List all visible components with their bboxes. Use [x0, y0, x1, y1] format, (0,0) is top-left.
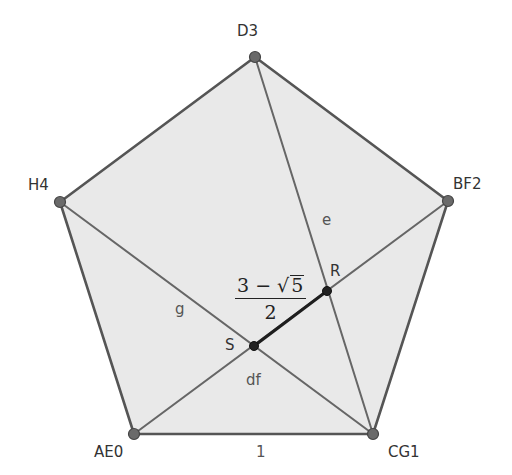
formula-denominator: 2 [235, 299, 306, 322]
vertex-CG1[interactable] [368, 429, 379, 440]
label-S: S [225, 338, 235, 353]
label-segment-df: df [246, 373, 261, 388]
vertex-H4[interactable] [55, 197, 66, 208]
label-segment-base: 1 [256, 445, 266, 460]
pentagon-diagram [0, 0, 512, 475]
vertex-BF2[interactable] [443, 196, 454, 207]
vertex-AE0[interactable] [129, 429, 140, 440]
formula-radicand: 5 [290, 275, 304, 295]
label-R: R [330, 264, 340, 279]
vertex-D3[interactable] [250, 52, 261, 63]
sqrt-symbol: √ [277, 274, 289, 296]
label-BF2: BF2 [453, 177, 481, 192]
label-CG1: CG1 [388, 445, 420, 460]
point-S[interactable] [250, 342, 259, 351]
formula-numerator-left: 3 − [237, 274, 277, 296]
label-D3: D3 [237, 24, 258, 39]
label-AE0: AE0 [94, 445, 123, 460]
label-segment-e: e [322, 213, 331, 228]
formula-length-RS: 3 − √5 2 [235, 275, 306, 322]
formula-numerator: 3 − √5 [235, 275, 306, 299]
point-R[interactable] [323, 287, 332, 296]
label-segment-g: g [175, 302, 185, 317]
label-H4: H4 [28, 178, 49, 193]
